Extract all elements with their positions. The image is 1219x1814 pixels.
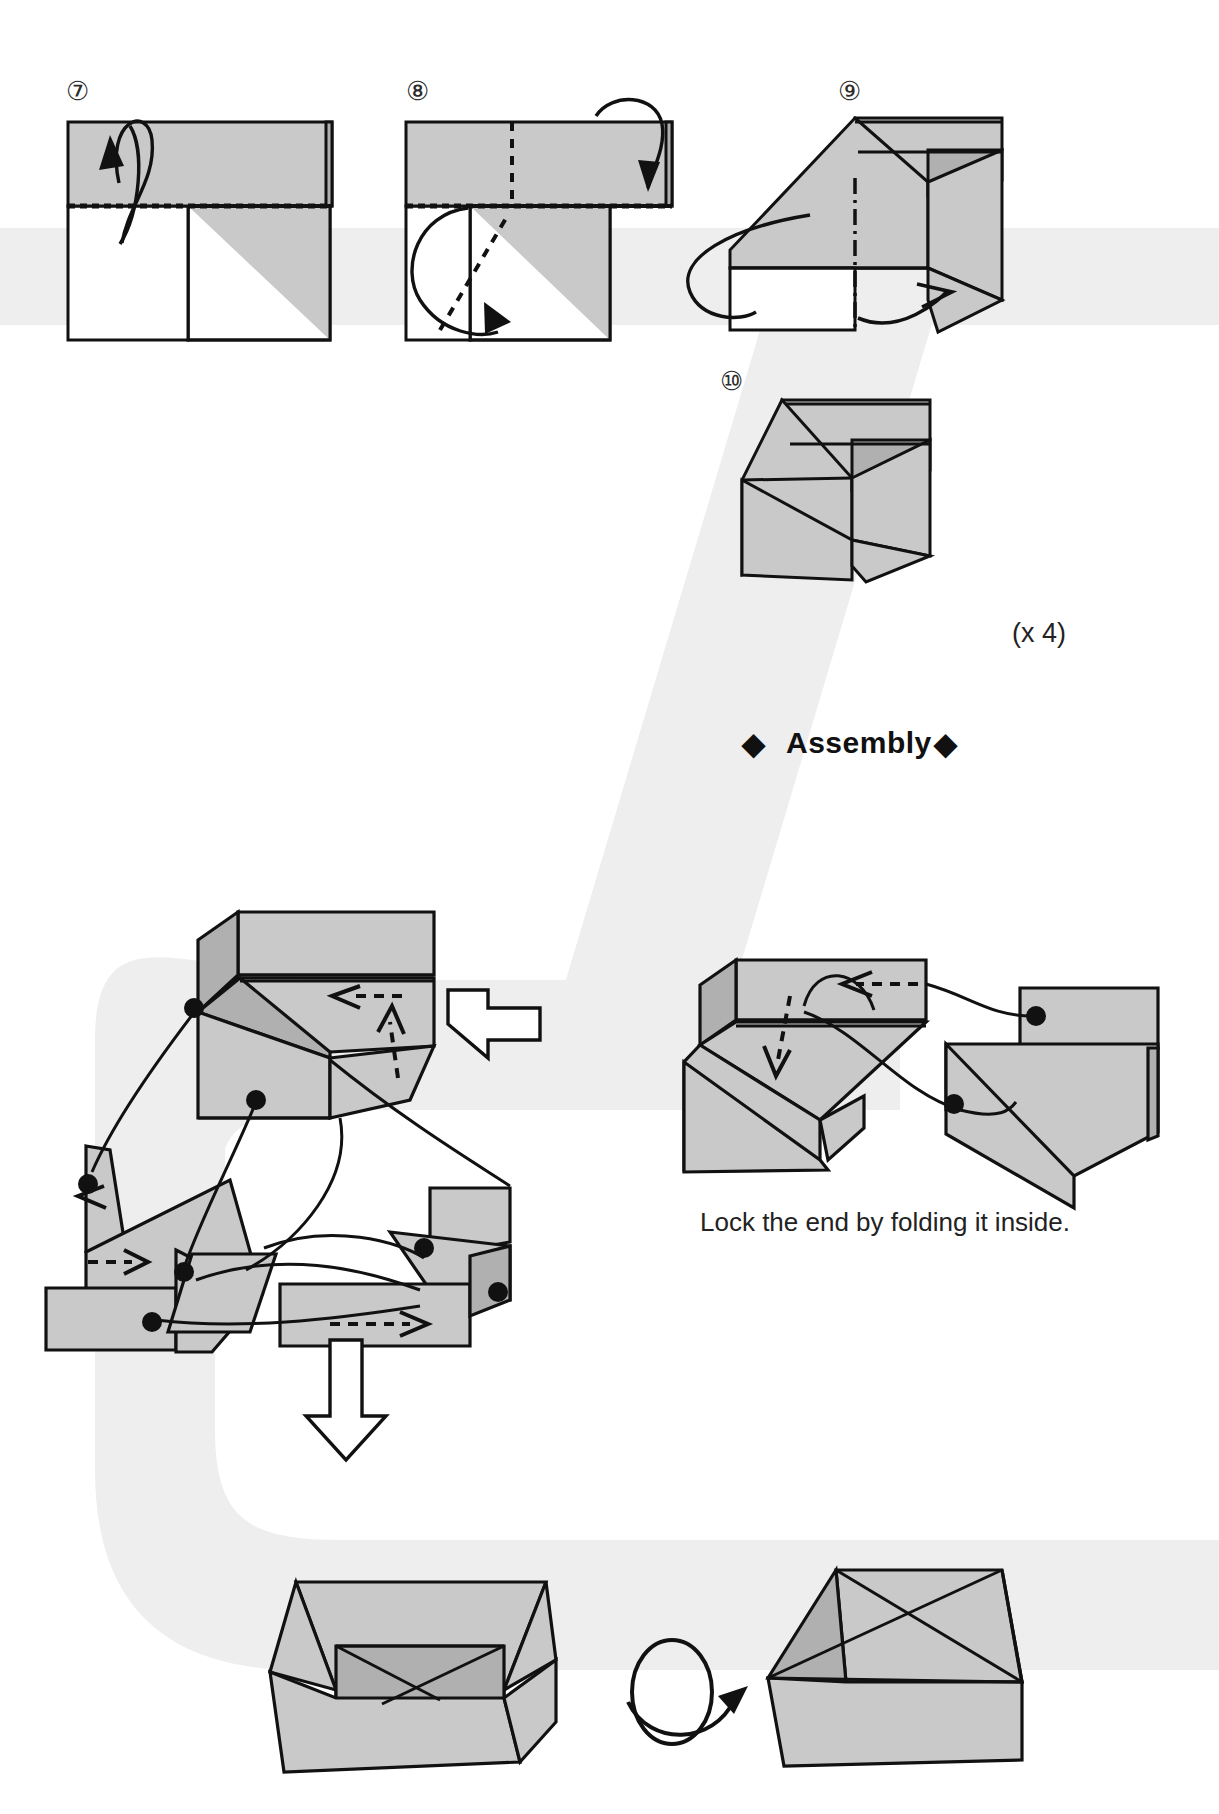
final-result-figures — [0, 0, 1219, 1814]
step-number-10: ⑩ — [720, 366, 743, 397]
assembly-diamond-left-icon: ◆ — [742, 726, 766, 761]
step-number-9: ⑨ — [838, 76, 861, 107]
origami-diagram-page: ⑦ ⑧ ⑨ ⑩ (x 4) ◆ Assembly ◆ Lock the end … — [0, 0, 1219, 1814]
lock-end-caption: Lock the end by folding it inside. — [700, 1207, 1070, 1238]
step-number-7: ⑦ — [66, 76, 89, 107]
assembly-diamond-right-icon: ◆ — [934, 726, 958, 761]
assembly-heading: Assembly — [786, 726, 932, 760]
repeat-count-label: (x 4) — [1012, 618, 1066, 649]
step-number-8: ⑧ — [406, 76, 429, 107]
turn-over-arrow — [628, 1640, 734, 1744]
